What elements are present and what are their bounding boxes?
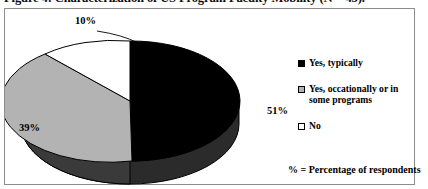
chart-footnote: % = Percentage of respondents [288, 164, 421, 175]
chart-legend: Yes, typically Yes, occationally or in s… [298, 57, 416, 145]
chart-frame: 10% 39% 51% Yes, typically Yes, occation… [4, 8, 415, 185]
legend-label-yes-typically: Yes, typically [309, 57, 363, 69]
pie-chart: 10% 39% [5, 9, 255, 186]
figure-caption: Figure 4: Characterization of US Program… [4, 0, 428, 7]
legend-item-yes-occasionally[interactable]: Yes, occationally or in some programs [298, 83, 416, 106]
legend-label-yes-occasionally: Yes, occationally or in some programs [309, 83, 416, 106]
legend-item-yes-typically[interactable]: Yes, typically [298, 57, 416, 69]
figure-root: Figure 4: Characterization of US Program… [0, 0, 428, 189]
pie-label-no: 10% [75, 15, 96, 26]
legend-item-no[interactable]: No [298, 120, 416, 132]
pie-label-yes-typically: 51% [267, 105, 288, 116]
legend-label-no: No [309, 120, 321, 132]
pie-label-yes-occasionally: 39% [19, 122, 40, 133]
pie-chart-svg [5, 9, 255, 186]
black-square-icon [298, 60, 305, 67]
gray-square-icon [298, 86, 305, 93]
white-square-icon [298, 123, 305, 130]
